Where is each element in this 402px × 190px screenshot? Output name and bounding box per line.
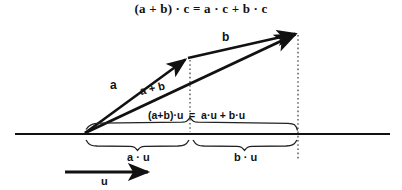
label-brace-a-u: a · u bbox=[127, 152, 150, 163]
vector-distributive-law-figure: (a + b) · c = a · c + b · c a bbox=[0, 0, 402, 190]
lower-brace-a-u bbox=[86, 140, 189, 150]
diagram-canvas bbox=[0, 0, 402, 190]
label-vector-b: b bbox=[222, 31, 229, 43]
label-vector-u: u bbox=[101, 176, 108, 187]
label-brace-b-u: b · u bbox=[234, 152, 257, 163]
lower-brace-b-u bbox=[193, 140, 297, 150]
vector-b-arrow bbox=[188, 34, 296, 58]
label-sum-projection: (a+b)·u = a·u + b·u bbox=[148, 110, 245, 121]
label-vector-a: a bbox=[110, 79, 117, 91]
